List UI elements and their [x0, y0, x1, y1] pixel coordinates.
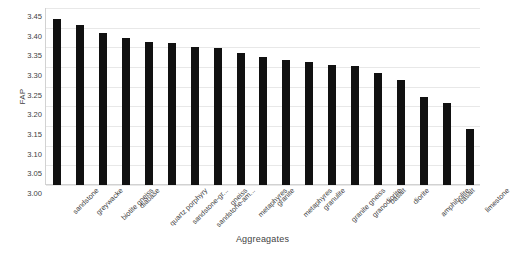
bar-slot — [435, 8, 458, 185]
bar[interactable] — [305, 62, 313, 185]
x-axis-title: Aggreagates — [45, 234, 480, 244]
y-axis-tick-label: 3.45 — [14, 12, 42, 21]
bar-slot — [69, 8, 92, 185]
bar-slot — [458, 8, 481, 185]
bar[interactable] — [328, 65, 336, 185]
bar[interactable] — [466, 129, 474, 185]
bar[interactable] — [397, 80, 405, 185]
bar[interactable] — [122, 38, 130, 185]
bar[interactable] — [237, 53, 245, 185]
bar[interactable] — [99, 33, 107, 185]
bar-slot — [344, 8, 367, 185]
y-axis-tick-label: 3.35 — [14, 51, 42, 60]
bar-slot — [206, 8, 229, 185]
y-axis-tick-label: 3.40 — [14, 31, 42, 40]
bar-slot — [138, 8, 161, 185]
bar-slot — [115, 8, 138, 185]
x-axis-tick-label: granite — [274, 186, 296, 208]
bar-slot — [160, 8, 183, 185]
bar[interactable] — [214, 48, 222, 185]
bar-slot — [183, 8, 206, 185]
x-axis-tick-label: diabase — [138, 186, 162, 210]
plot-area — [45, 8, 480, 185]
bar[interactable] — [145, 42, 153, 185]
bar[interactable] — [351, 66, 359, 185]
bar-slot — [252, 8, 275, 185]
bar-slot — [275, 8, 298, 185]
bar[interactable] — [420, 97, 428, 185]
bar-slot — [389, 8, 412, 185]
y-axis-tick-labels: 3.453.403.353.303.253.203.153.103.053.00 — [14, 8, 42, 185]
bar-slot — [321, 8, 344, 185]
bar-slot — [46, 8, 69, 185]
bar[interactable] — [76, 25, 84, 185]
bar-slot — [298, 8, 321, 185]
x-axis-tick-label: basalt — [388, 186, 408, 206]
x-axis-tick-label: limestone — [483, 186, 511, 214]
bar[interactable] — [191, 47, 199, 185]
y-axis-tick-label: 3.20 — [14, 110, 42, 119]
bar[interactable] — [282, 60, 290, 185]
y-axis-tick-label: 3.15 — [14, 130, 42, 139]
y-axis-tick-label: 3.10 — [14, 149, 42, 158]
bars-layer — [46, 8, 480, 185]
bar[interactable] — [259, 57, 267, 185]
bar-slot — [92, 8, 115, 185]
bar[interactable] — [443, 103, 451, 185]
bar-slot — [367, 8, 390, 185]
x-axis-tick-label: diorite — [411, 186, 431, 206]
y-axis-tick-label: 3.30 — [14, 71, 42, 80]
y-axis-tick-label: 3.05 — [14, 169, 42, 178]
y-axis-tick-label: 3.00 — [14, 189, 42, 198]
bar-slot — [412, 8, 435, 185]
y-axis-tick-label: 3.25 — [14, 90, 42, 99]
x-axis-tick-labels: sandstonegreywackebiotite gneissdiabaseq… — [45, 186, 480, 234]
bar-slot — [229, 8, 252, 185]
bar[interactable] — [374, 73, 382, 185]
bar[interactable] — [53, 19, 61, 185]
bar[interactable] — [168, 43, 176, 185]
x-axis-tick-label: basalt — [456, 186, 476, 206]
